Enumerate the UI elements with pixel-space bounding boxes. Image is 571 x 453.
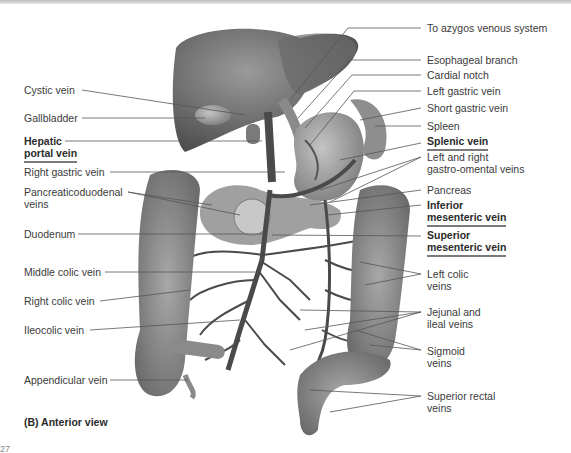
label-left-gastric-vein: Left gastric vein — [427, 85, 501, 97]
label-to-azygos: To azygos venous system — [427, 22, 547, 34]
label-hepatic-portal-vein-line2: portal vein — [24, 147, 77, 163]
label-esophageal-branch: Esophageal branch — [427, 54, 518, 66]
label-duodenum: Duodenum — [24, 228, 75, 240]
label-middle-colic-vein: Middle colic vein — [24, 266, 101, 278]
label-jejunal-ileal-line1: Jejunal and — [427, 306, 481, 318]
figure-caption: (B) Anterior view — [24, 416, 108, 428]
label-superior-rectal-line1: Superior rectal — [427, 390, 495, 402]
ascending-colon — [135, 170, 200, 396]
label-left-colic-line1: Left colic — [427, 268, 468, 280]
label-sigmoid-line2: veins — [427, 357, 452, 369]
label-gastro-omental-line2: gastro-omental veins — [427, 163, 524, 175]
label-pancreaticoduodenal-line2: veins — [24, 198, 49, 210]
stomach — [294, 112, 364, 201]
label-splenic-vein: Splenic vein — [427, 135, 488, 151]
label-right-colic-vein: Right colic vein — [24, 295, 95, 307]
label-gallbladder: Gallbladder — [24, 112, 78, 124]
label-pancreaticoduodenal-line1: Pancreaticoduodenal — [24, 186, 123, 198]
label-hepatic-portal-vein-line1: Hepatic — [24, 135, 62, 147]
label-ileocolic-vein: Ileocolic vein — [24, 324, 84, 336]
appendix — [185, 375, 193, 398]
label-spleen: Spleen — [427, 120, 460, 132]
descending-colon — [347, 185, 410, 367]
label-cystic-vein: Cystic vein — [24, 84, 75, 96]
label-pancreas: Pancreas — [427, 184, 471, 196]
label-left-colic-line2: veins — [427, 280, 452, 292]
label-sigmoid-line1: Sigmoid — [427, 345, 465, 357]
label-short-gastric-vein: Short gastric vein — [427, 102, 508, 114]
label-inferior-mesenteric-line1: Inferior — [427, 199, 463, 211]
label-inferior-mesenteric-line2: mesenteric vein — [427, 211, 506, 227]
label-jejunal-ileal-line2: ileal veins — [427, 318, 473, 330]
label-superior-mesenteric-line2: mesenteric vein — [427, 241, 506, 257]
label-superior-rectal-line2: veins — [427, 402, 452, 414]
label-appendicular-vein: Appendicular vein — [24, 374, 107, 386]
label-superior-mesenteric-line1: Superior — [427, 229, 470, 241]
label-gastro-omental-line1: Left and right — [427, 151, 488, 163]
label-right-gastric-vein: Right gastric vein — [24, 166, 105, 178]
label-cardial-notch: Cardial notch — [427, 69, 489, 81]
footer-fragment: 27 — [0, 444, 10, 453]
